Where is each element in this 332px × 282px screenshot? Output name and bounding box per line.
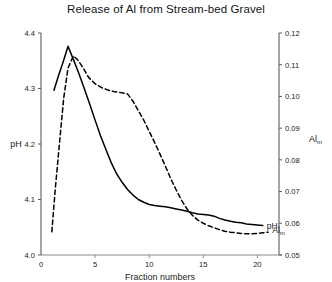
y-tick-label-left-0: 4.0 [24, 251, 35, 260]
y-tick-label-right-6: 0.11 [285, 61, 299, 70]
series-line-ph [54, 46, 263, 225]
x-origin-label: 0 [39, 260, 43, 269]
y-axis-left-title: pH [10, 139, 22, 149]
y-tick-label-left-4: 4.4 [24, 29, 35, 38]
y-tick-label-right-7: 0.12 [285, 29, 300, 38]
y-tick-label-right-4: 0.09 [285, 124, 300, 133]
y-tick-label-right-5: 0.10 [285, 92, 300, 101]
x-tick-label-1: 10 [145, 260, 153, 269]
chart-plot: 4.04.14.24.34.40.050.060.070.080.090.100… [0, 0, 332, 282]
x-tick-label-2: 15 [199, 260, 207, 269]
series-line-al-m [52, 56, 268, 234]
y-tick-label-left-1: 4.1 [24, 195, 35, 204]
x-tick-label-3: 20 [253, 260, 261, 269]
y-tick-label-right-2: 0.07 [285, 187, 300, 196]
y-tick-label-left-3: 4.3 [24, 84, 35, 93]
y-tick-label-right-3: 0.08 [285, 156, 300, 165]
y-tick-label-left-2: 4.2 [24, 140, 35, 149]
series-end-label-al-m: Alm [272, 225, 285, 236]
chart-container: Release of Al from Stream-bed Gravel 4.0… [0, 0, 332, 282]
x-axis-title: Fraction numbers [125, 272, 196, 282]
y-tick-label-right-0: 0.05 [285, 251, 300, 260]
y-axis-right-title: Alm [309, 134, 322, 145]
x-tick-label-0: 5 [93, 260, 97, 269]
y-tick-label-right-1: 0.06 [285, 219, 300, 228]
